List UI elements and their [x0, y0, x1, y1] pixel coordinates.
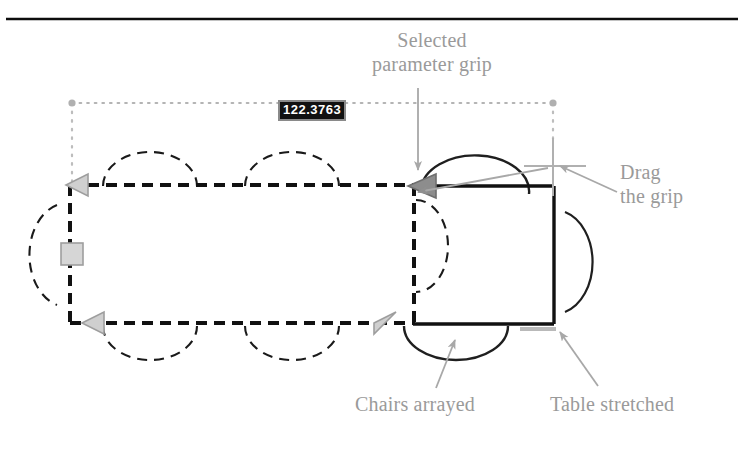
- original-table-outline: [70, 185, 415, 323]
- parameter-node-left: [68, 99, 75, 106]
- annotation-drag-grip-line2: the grip: [620, 185, 683, 207]
- annotation-selected-grip-line1: Selected: [397, 29, 466, 51]
- grip-bottom-right[interactable]: [374, 312, 396, 334]
- leader-table-stretched: [560, 332, 598, 386]
- figure-canvas: 122.3763 Selectedparameter grip Dragthe …: [0, 0, 744, 457]
- annotation-selected-grip: Selectedparameter grip: [352, 28, 512, 76]
- chair-arc-bottom-1: [103, 326, 197, 360]
- chair-arc-left: [29, 205, 57, 305]
- annotation-selected-grip-line2: parameter grip: [372, 53, 492, 75]
- chair-arc-ghost-right: [416, 200, 448, 292]
- parameter-node-right: [549, 99, 556, 106]
- dimension-value-readout[interactable]: 122.3763: [278, 100, 346, 121]
- annotation-drag-grip: Dragthe grip: [620, 160, 740, 208]
- chair-arc-bottom-2: [245, 326, 339, 360]
- leader-chairs-arrayed: [436, 340, 455, 388]
- annotation-table-stretched: Table stretched: [550, 392, 674, 416]
- chair-arc-top-2: [245, 152, 339, 186]
- annotation-chairs-arrayed: Chairs arrayed: [355, 392, 475, 416]
- leader-drag-grip: [560, 166, 617, 192]
- grip-left-bottom[interactable]: [82, 312, 104, 334]
- chair-arc-top-1: [103, 152, 197, 186]
- chair-arc-bottom-new: [404, 326, 508, 360]
- annotation-drag-grip-line1: Drag: [620, 161, 661, 183]
- grip-square-left[interactable]: [61, 243, 83, 265]
- chair-arcs-top: [103, 152, 339, 186]
- chair-arcs-bottom: [103, 326, 339, 360]
- chair-arc-right: [565, 212, 593, 312]
